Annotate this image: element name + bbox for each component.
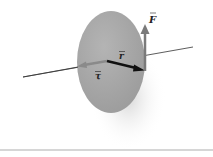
rotation-axis-front	[23, 67, 78, 77]
torque-diagram: F r τ	[0, 0, 213, 157]
force-label: F	[148, 14, 157, 25]
torque-label: τ	[95, 71, 102, 81]
force-arrowhead-icon	[141, 24, 150, 34]
